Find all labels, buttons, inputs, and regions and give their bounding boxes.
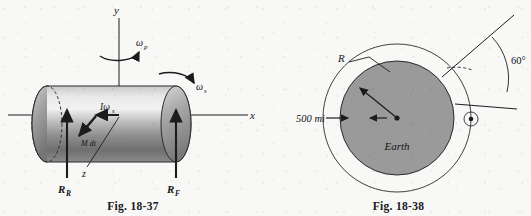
angle-arc [492, 37, 509, 92]
figure-18-37-canvas: y x ω p ω s Iω s M d [0, 0, 266, 216]
moment-impulse-label: M dt [80, 139, 97, 148]
omega-p-subscript: p [143, 43, 148, 51]
figure-18-38: Earth R 500 mi 60° Fig. 18-38 [266, 0, 531, 216]
figure-18-38-caption: Fig. 18-38 [266, 200, 531, 212]
axis-z-label: z [81, 168, 86, 179]
angle-ray-lower [455, 104, 517, 109]
figure-plate: y x ω p ω s Iω s M d [0, 0, 531, 216]
figure-18-37-caption: Fig. 18-37 [0, 200, 266, 212]
angular-momentum-label: Iω [99, 102, 110, 112]
figure-18-37: y x ω p ω s Iω s M d [0, 0, 266, 216]
axis-x-label: x [249, 109, 255, 121]
satellite-dot [469, 117, 474, 122]
reaction-front-subscript: F [175, 189, 180, 198]
figure-18-38-canvas: Earth R 500 mi 60° [266, 0, 531, 216]
spin-arc-arrow [159, 73, 194, 83]
radius-label: R [337, 52, 345, 64]
earth-label: Earth [383, 140, 410, 152]
omega-s-subscript: s [204, 87, 207, 95]
reaction-front-label: R [166, 183, 174, 195]
reaction-rear-subscript: R [65, 189, 71, 198]
rotor-end-cap-left [32, 86, 47, 162]
angle-label: 60° [511, 55, 526, 66]
reaction-rear-label: R [57, 183, 65, 195]
omega-p-label: ω [136, 37, 143, 48]
omega-s-label: ω [196, 81, 203, 92]
axis-y-label: y [113, 4, 119, 16]
altitude-label: 500 mi [296, 113, 325, 124]
